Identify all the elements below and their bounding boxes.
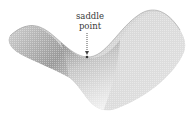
arrow-head-icon [85,51,89,55]
saddle-diagram: saddle point [0,0,196,119]
saddle-point-label: saddle point [73,11,107,31]
label-line-1: saddle [73,11,107,21]
saddle-point-marker [86,56,89,59]
label-line-2: point [73,21,107,31]
